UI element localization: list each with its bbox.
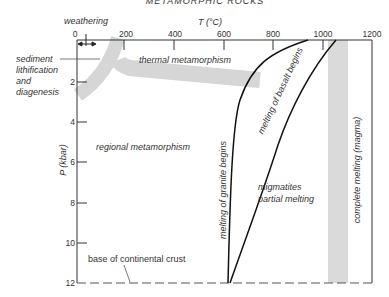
sediment-label: sediment lithification and diagenesis [16, 54, 60, 97]
base-of-crust-label: base of continental crust [88, 254, 186, 264]
svg-text:1200: 1200 [363, 29, 382, 39]
svg-text:partial melting: partial melting [257, 194, 314, 204]
svg-text:migmatites: migmatites [258, 182, 302, 192]
basalt-curve-label: melting of basalt begins [256, 45, 305, 135]
base-of-crust-leader-line [124, 265, 130, 282]
y-tick-labels: 2 4 6 8 10 12 [66, 77, 76, 288]
complete-melting-label: complete melting (magma) [352, 117, 362, 224]
svg-text:800: 800 [266, 29, 280, 39]
svg-text:6: 6 [70, 157, 75, 167]
svg-text:600: 600 [217, 29, 231, 39]
grey-bands [78, 38, 348, 283]
x-tick-labels: 0 200 400 600 800 1000 1200 [73, 29, 382, 39]
svg-text:lithification: lithification [16, 65, 58, 75]
regional-metamorphism-label: regional metamorphism [96, 142, 191, 152]
diagenesis-band [78, 38, 118, 95]
svg-text:2: 2 [70, 77, 75, 87]
svg-text:1000: 1000 [314, 29, 333, 39]
diagram-title: METAMORPHIC ROCKS [146, 0, 264, 6]
svg-text:sediment: sediment [16, 54, 53, 64]
svg-text:400: 400 [168, 29, 182, 39]
weathering-label: weathering [64, 16, 108, 26]
svg-text:diagenesis: diagenesis [16, 87, 60, 97]
thermal-metamorphism-label: thermal metamorphism [139, 55, 232, 65]
complete-melting-band [328, 40, 348, 283]
svg-text:4: 4 [70, 117, 75, 127]
svg-text:10: 10 [66, 238, 76, 248]
svg-text:0: 0 [73, 29, 78, 39]
y-axis-label: P (kbar) [58, 144, 68, 176]
y-ticks [77, 82, 87, 243]
svg-text:8: 8 [70, 198, 75, 208]
x-axis-label: T (°C) [198, 17, 222, 27]
svg-text:12: 12 [66, 278, 76, 288]
migmatites-label: migmatites partial melting [257, 182, 314, 204]
granite-curve-label: melting of granite begins [218, 140, 228, 239]
svg-text:and: and [16, 76, 32, 86]
svg-text:200: 200 [119, 29, 133, 39]
metamorphic-pt-diagram: METAMORPHIC ROCKS 0 200 400 600 800 1000… [0, 0, 389, 297]
